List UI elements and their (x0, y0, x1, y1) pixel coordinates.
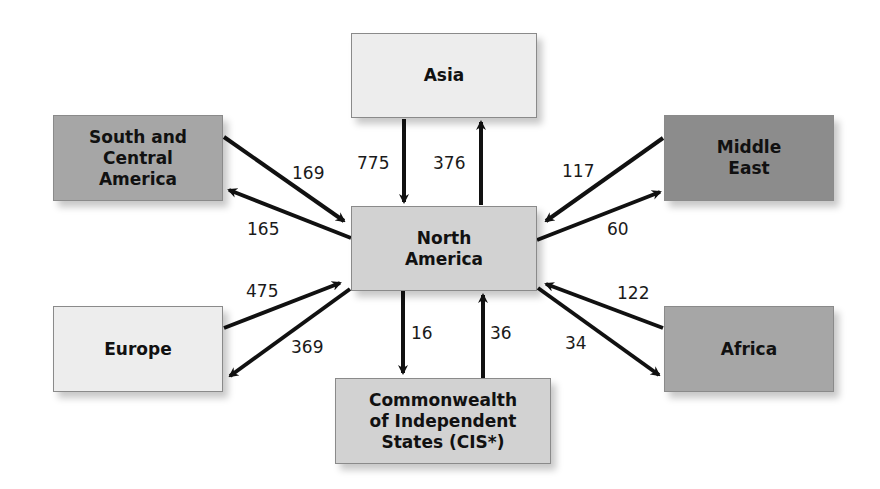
region-europe-label: Europe (104, 339, 171, 360)
region-me-label-line1: Middle (717, 137, 781, 158)
flow-value-sca-to-na: 169 (292, 164, 324, 182)
region-sca-label-line3: America (89, 169, 187, 190)
region-sca-label-line2: Central (89, 148, 187, 169)
flow-value-af-to-na: 122 (617, 284, 649, 302)
region-cis-label-line3: States (CIS*) (369, 432, 517, 453)
region-cis-label-line1: Commonwealth (369, 390, 517, 411)
region-south-central-america: South and Central America (53, 115, 223, 201)
region-middle-east: Middle East (664, 115, 834, 201)
region-cis-label-line2: of Independent (369, 411, 517, 432)
arrow-sca-to-na (224, 137, 344, 221)
region-asia-label: Asia (424, 65, 465, 86)
region-na-label-line2: America (405, 249, 483, 270)
region-asia: Asia (351, 33, 537, 118)
flow-value-eu-to-na: 475 (246, 282, 278, 300)
flow-value-cis-to-na: 36 (490, 324, 512, 342)
flow-value-na-to-af: 34 (565, 334, 587, 352)
region-africa-label: Africa (721, 339, 777, 360)
region-na-label-line1: North (405, 228, 483, 249)
flow-value-me-to-na: 117 (562, 162, 594, 180)
flow-value-na-to-eu: 369 (291, 338, 323, 356)
flow-value-asia-to-na: 775 (357, 154, 389, 172)
region-cis: Commonwealth of Independent States (CIS*… (335, 378, 551, 464)
region-africa: Africa (664, 306, 834, 392)
region-europe: Europe (53, 306, 223, 392)
region-north-america: North America (351, 206, 537, 291)
flow-value-na-to-me: 60 (607, 220, 629, 238)
flow-value-na-to-sca: 165 (247, 220, 279, 238)
arrow-eu-to-na (224, 283, 340, 328)
region-me-label-line2: East (717, 158, 781, 179)
region-sca-label-line1: South and (89, 127, 187, 148)
flow-value-na-to-asia: 376 (433, 154, 465, 172)
flow-value-na-to-cis: 16 (411, 324, 433, 342)
